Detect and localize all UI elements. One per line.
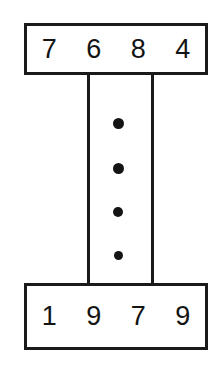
number-sequence-diagram: 7 6 8 4 1 9 7 9 <box>0 0 220 384</box>
ellipsis-dot-icon <box>114 251 123 260</box>
connector-line-right <box>151 74 154 286</box>
connector-line-left <box>87 74 90 286</box>
ellipsis-dot-icon <box>113 118 124 129</box>
ellipsis-dot-icon <box>113 163 124 174</box>
bottom-digit-4: 9 <box>161 303 206 330</box>
ellipsis-dot-icon <box>113 207 123 217</box>
bottom-digit-2: 9 <box>72 303 117 330</box>
top-digit-1: 7 <box>27 36 72 63</box>
bottom-digit-3: 7 <box>116 303 161 330</box>
top-digit-4: 4 <box>161 36 206 63</box>
bottom-digit-1: 1 <box>27 303 72 330</box>
top-number-box: 7 6 8 4 <box>24 23 208 75</box>
top-digit-2: 6 <box>72 36 117 63</box>
top-digit-3: 8 <box>116 36 161 63</box>
bottom-number-box: 1 9 7 9 <box>24 283 208 350</box>
